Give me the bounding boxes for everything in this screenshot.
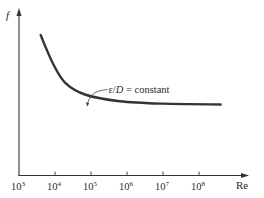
x-tick-label: 105 <box>83 180 98 192</box>
x-tick-label: 103 <box>11 180 26 192</box>
x-tick-label: 108 <box>191 180 206 192</box>
annotation-arrow-icon <box>86 103 89 107</box>
x-axis-arrow-icon <box>241 173 249 178</box>
x-ticks: 103104105106107108 <box>11 172 206 193</box>
x-tick-label: 107 <box>155 180 170 192</box>
x-tick-label: 104 <box>47 180 62 192</box>
y-axis-label: f <box>6 9 11 21</box>
chart: f Re 103104105106107108 ε/D = constant <box>0 0 264 198</box>
annotation-label: ε/D = constant <box>108 84 169 95</box>
y-axis-arrow-icon <box>17 8 22 16</box>
x-axis-label: Re <box>236 179 248 191</box>
x-tick-label: 106 <box>119 180 134 192</box>
